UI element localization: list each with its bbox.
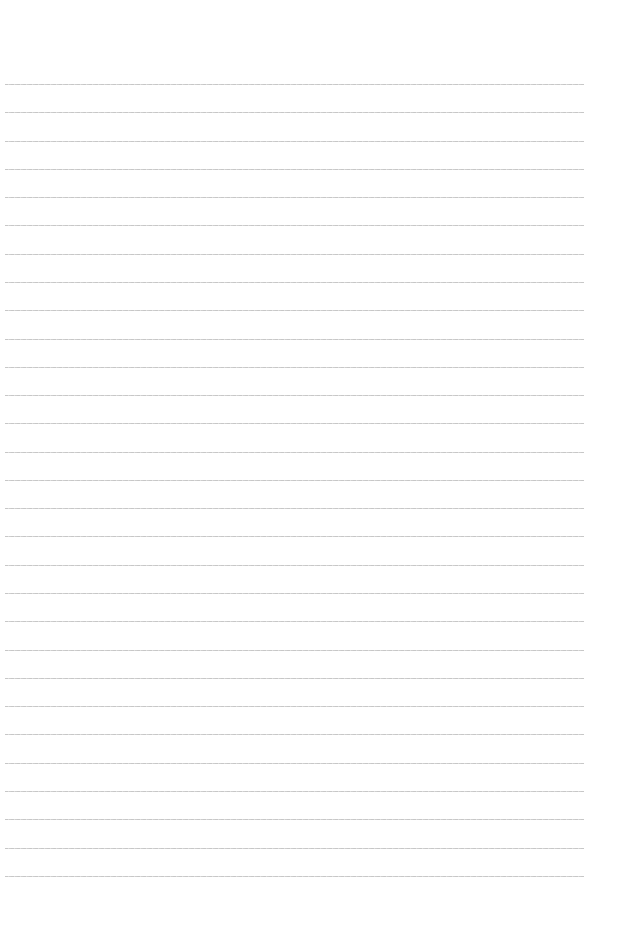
ruled-line — [5, 650, 584, 651]
ruled-line — [5, 848, 584, 849]
ruled-line — [5, 734, 584, 735]
ruled-line — [5, 565, 584, 566]
ruled-line — [5, 791, 584, 792]
ruled-line — [5, 621, 584, 622]
ruled-line — [5, 763, 584, 764]
ruled-line — [5, 169, 584, 170]
ruled-line — [5, 706, 584, 707]
ruled-line — [5, 819, 584, 820]
ruled-line — [5, 282, 584, 283]
ruled-line — [5, 480, 584, 481]
ruled-line — [5, 593, 584, 594]
ruled-line — [5, 197, 584, 198]
ruled-line — [5, 508, 584, 509]
ruled-line — [5, 678, 584, 679]
ruled-line — [5, 536, 584, 537]
ruled-line — [5, 339, 584, 340]
ruled-line — [5, 84, 584, 85]
ruled-line — [5, 395, 584, 396]
ruled-line — [5, 141, 584, 142]
ruled-line — [5, 225, 584, 226]
ruled-line — [5, 423, 584, 424]
ruled-line — [5, 876, 584, 877]
ruled-line — [5, 254, 584, 255]
ruled-line — [5, 310, 584, 311]
ruled-line — [5, 452, 584, 453]
lined-paper-page — [0, 0, 620, 945]
ruled-line — [5, 112, 584, 113]
ruled-line — [5, 367, 584, 368]
